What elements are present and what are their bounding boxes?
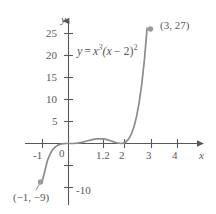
point-label-high: (3, 27): [160, 20, 189, 31]
equation-annotation: y=x3(x− 2)2: [77, 44, 138, 57]
y-tick-label-10: 10: [46, 94, 57, 105]
equation-equals: =: [82, 44, 93, 58]
x-tick-label-1-2: 1.2: [96, 150, 110, 161]
x-tick-label-4: 4: [172, 150, 178, 161]
x-axis-label: x: [199, 150, 204, 161]
x-tick-label-minus-1: -1: [33, 150, 42, 161]
y-tick-label-25: 25: [46, 28, 57, 39]
y-tick-label-20: 20: [46, 50, 57, 61]
leader-line-high: [147, 29, 150, 30]
equation-exponent-2: 2: [134, 43, 138, 52]
point-label-low: (−1, −9): [13, 192, 49, 203]
x-tick-label-2: 2: [119, 150, 125, 161]
plot-canvas: [0, 0, 216, 214]
y-tick-label-minus-10: -10: [76, 185, 91, 196]
equation-minus-two: − 2): [112, 44, 134, 58]
function-graph-figure: 25 20 15 10 5 -10 -1 0 1.2 2 3 4 x y (3,…: [0, 0, 216, 214]
x-tick-label-0: 0: [59, 148, 65, 159]
x-tick-label-3: 3: [146, 150, 152, 161]
y-tick-label-5: 5: [52, 116, 58, 127]
equation-paren-open: (x: [102, 44, 111, 58]
y-tick-label-15: 15: [46, 72, 57, 83]
y-axis-label: y: [61, 14, 66, 25]
